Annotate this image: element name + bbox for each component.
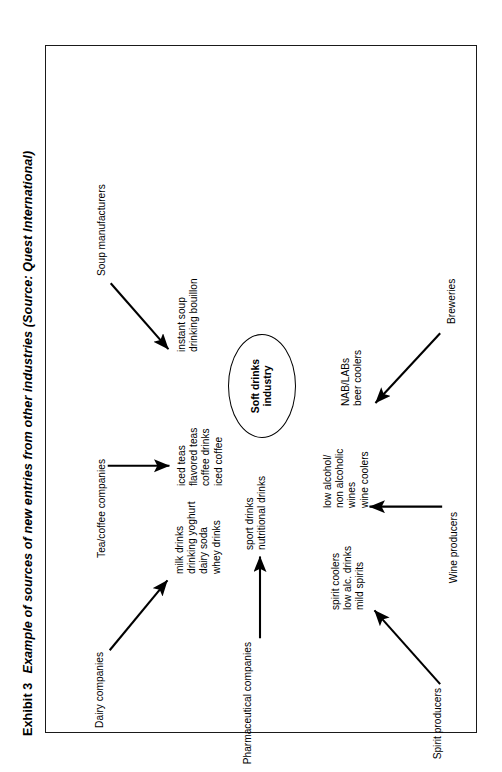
- source-label-pharmaceutical-companies: Pharmaceutical companies: [242, 642, 254, 772]
- source-label-dairy-companies: Dairy companies: [94, 652, 106, 772]
- exhibit-title: Example of sources of new entries from o…: [21, 151, 35, 674]
- arrow-spirit-producers: [374, 610, 440, 684]
- exhibit-number: Exhibit 3: [21, 683, 35, 736]
- product-list-breweries: NAB/LABs beer coolers: [340, 266, 364, 406]
- rotated-exhibit-wrapper: Exhibit 3Example of sources of new entri…: [15, 30, 487, 742]
- product-list-tea-coffee-companies: iced teas flavored teas coffee drinks ic…: [176, 346, 225, 486]
- arrow-soup-manufacturers: [111, 283, 169, 349]
- center-node-soft-drinks-industry: Soft drinks industry: [228, 334, 296, 438]
- exhibit-page: Exhibit 3Example of sources of new entri…: [0, 0, 502, 772]
- source-label-breweries: Breweries: [446, 194, 458, 324]
- source-label-wine-producers: Wine producers: [448, 512, 460, 632]
- source-label-spirit-producers: Spirit producers: [432, 688, 444, 772]
- source-label-tea-coffee-companies: Tea/coffee companies: [96, 459, 108, 605]
- product-list-soup-manufacturers: instant soup drinking bouillon: [176, 192, 200, 352]
- arrow-breweries: [375, 333, 440, 403]
- source-label-soup-manufacturers: Soup manufacturers: [96, 116, 108, 276]
- exhibit-caption: Exhibit 3Example of sources of new entri…: [21, 36, 43, 736]
- arrow-dairy-companies: [110, 580, 168, 650]
- diagram-frame: Dairy companies milk drinks drinking yog…: [45, 45, 477, 733]
